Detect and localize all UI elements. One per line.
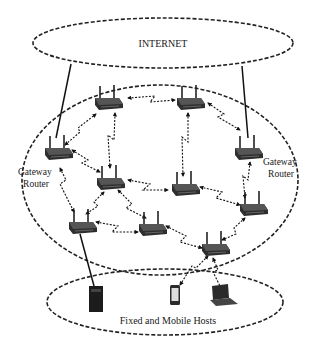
mesh-cloud <box>22 85 298 275</box>
router-icon <box>172 171 200 196</box>
hosts-label: Fixed and Mobile Hosts <box>120 315 216 326</box>
gateway-label-left: Gateway Router <box>18 167 54 189</box>
mesh-network-diagram: INTERNET Gateway Router <box>0 0 317 342</box>
internet-label: INTERNET <box>139 38 188 49</box>
wireless-links <box>60 96 250 290</box>
router-icon <box>139 211 167 236</box>
laptop-icon <box>210 284 238 306</box>
gateway-label-right: Gateway Router <box>263 157 299 179</box>
gateway-router-icon-left <box>45 135 73 160</box>
server-tower-icon <box>89 286 103 312</box>
gateway-router-icon-right <box>235 135 263 160</box>
router-icon <box>69 209 97 234</box>
router-icon <box>97 165 125 190</box>
smartphone-icon <box>170 285 180 305</box>
router-icon <box>202 231 230 256</box>
